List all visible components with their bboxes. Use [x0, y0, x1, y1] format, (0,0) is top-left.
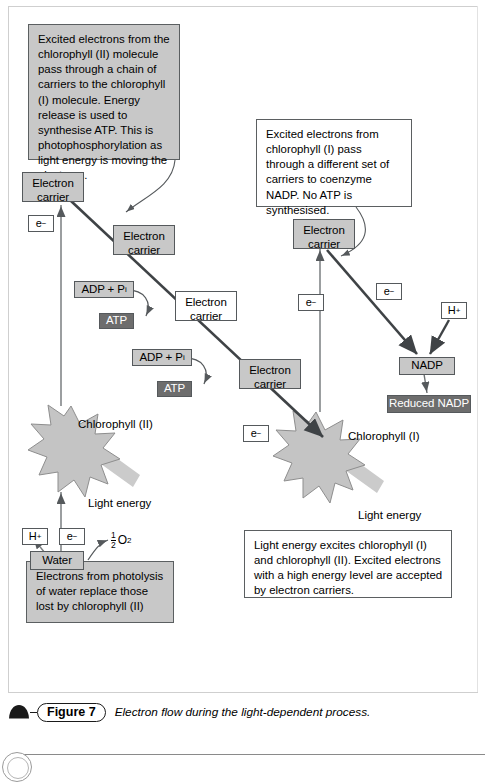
figure-caption-text: Electron flow during the light-dependent… — [115, 705, 371, 719]
electron-charge: − — [390, 287, 395, 296]
carrier-label-line2: carrier — [23, 191, 83, 205]
light-energy-arrow-right — [322, 442, 384, 493]
proton-charge: + — [456, 306, 461, 315]
adp-pi-lower-subscript: i — [183, 353, 185, 362]
caption-dash — [30, 712, 37, 713]
electron-tag-right-vertical: e− — [298, 294, 324, 311]
arrow-proton-to-nadp — [430, 320, 449, 354]
electron-charge: − — [73, 532, 78, 541]
carrier-label-line1: Electron — [294, 224, 354, 238]
page-frame-left — [8, 6, 9, 692]
figure-caption-row: Figure 7 Electron flow during the light-… — [8, 700, 478, 724]
label-light-energy-right: Light energy — [358, 509, 421, 521]
note-chlorophyll-2: Excited electrons from the chlorophyll (… — [28, 24, 180, 160]
atp-lower: ATP — [157, 381, 192, 397]
carrier-label-line2: carrier — [240, 378, 300, 392]
electron-tag-nadp-path: e− — [376, 283, 402, 300]
oxygen-symbol: O — [118, 533, 127, 547]
electron-charge: − — [257, 429, 262, 438]
atp-upper: ATP — [99, 313, 134, 329]
note-light-energy: Light energy excites chlorophyll (I) and… — [244, 530, 452, 598]
light-energy-arrow-left — [78, 436, 140, 487]
label-light-energy-left: Light energy — [88, 497, 151, 509]
carrier-label-line1: Electron — [23, 177, 83, 191]
carrier-center-mid: Electron carrier — [175, 291, 237, 321]
atp-lower-text: ATP — [164, 382, 185, 396]
reduced-nadp: Reduced NADP — [387, 395, 471, 413]
adp-pi-upper: ADP + Pi — [74, 281, 134, 298]
proton-tag-nadp: H+ — [441, 302, 467, 319]
arrow-nadp-to-reduced-nadp — [424, 374, 427, 393]
adp-pi-lower: ADP + Pi — [132, 349, 192, 366]
water: Water — [30, 551, 84, 570]
reduced-nadp-text: Reduced NADP — [389, 397, 469, 411]
electron-tag-water: e− — [59, 528, 85, 545]
fraction-numerator: 1 — [111, 531, 116, 540]
oxygen-fraction: 1 2 — [111, 531, 116, 549]
figure-number-badge: Figure 7 — [37, 703, 106, 722]
carrier-label-line1: Electron — [114, 230, 174, 244]
carrier-label-line1: Electron — [176, 296, 236, 310]
proton-symbol: H — [448, 304, 456, 317]
proton-symbol: H — [29, 530, 37, 543]
fraction-denominator: 2 — [111, 540, 116, 550]
electron-tag-left: e− — [28, 215, 54, 232]
page-frame-right — [477, 6, 478, 692]
oxygen-product: 1 2 O2 — [111, 531, 132, 549]
note-chlorophyll-1: Excited electrons from chlorophyll (I) p… — [256, 119, 412, 207]
chlorophyll-1-star — [273, 411, 365, 503]
nadp-text: NADP — [411, 359, 443, 373]
footer-rule — [14, 754, 485, 755]
carrier-label-line2: carrier — [114, 244, 174, 258]
page-frame-bottom — [8, 692, 478, 693]
note-photolysis: Electrons from photolysis of water repla… — [26, 561, 174, 623]
carrier-label-line1: Electron — [240, 364, 300, 378]
electron-tag-diagonal: e− — [243, 425, 269, 442]
label-chlorophyll-1: Chlorophyll (I) — [348, 430, 420, 442]
adp-pi-upper-subscript: i — [125, 285, 127, 294]
electron-charge: − — [312, 298, 317, 307]
arrow-carrier-to-nadp — [327, 250, 417, 354]
proton-tag-water: H+ — [22, 528, 48, 545]
nadp: NADP — [399, 357, 455, 375]
carrier-label-line2: carrier — [176, 310, 236, 324]
carrier-right-top: Electron carrier — [293, 219, 355, 249]
atp-upper-text: ATP — [106, 314, 127, 328]
carrier-left-mid: Electron carrier — [113, 225, 175, 255]
oxygen-subscript: 2 — [127, 536, 131, 545]
label-chlorophyll-2: Chlorophyll (II) — [78, 418, 153, 430]
page-frame-top — [8, 6, 478, 7]
water-text: Water — [42, 554, 72, 568]
carrier-center-low: Electron carrier — [239, 359, 301, 389]
proton-charge: + — [37, 532, 42, 541]
electron-charge: − — [42, 219, 47, 228]
adp-pi-upper-text: ADP + P — [81, 283, 125, 297]
arch-triangle-icon — [8, 704, 30, 720]
adp-pi-lower-text: ADP + P — [139, 351, 183, 365]
carrier-left-top: Electron carrier — [22, 172, 84, 202]
carrier-label-line2: carrier — [294, 238, 354, 252]
footer-corner-circle-inner — [7, 757, 29, 779]
arrow-water-to-oxygen — [88, 540, 108, 560]
